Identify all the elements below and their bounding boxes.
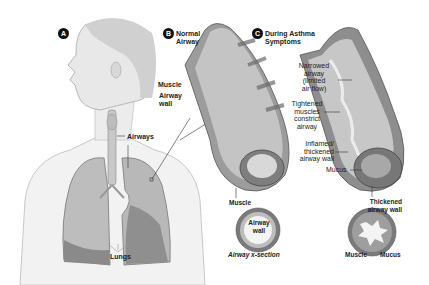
xsec-label-mucus: Mucus	[380, 251, 401, 259]
label-mucus: Mucus	[326, 166, 347, 174]
xsec-caption: Airway x-section	[228, 251, 280, 259]
panel-b-title: Normal Airway	[176, 30, 200, 45]
badge-b: B	[163, 28, 174, 39]
label-tightened-muscles: Tightened muscles constrict airway	[287, 100, 327, 130]
xsec-label-muscle: Muscle	[229, 199, 251, 207]
label-muscle: Muscle	[158, 81, 182, 89]
label-airway-wall: Airway wall	[159, 92, 182, 107]
panel-c-title: During Asthma Symptoms	[265, 30, 315, 45]
label-narrowed-airway: Narrowed airway (limited air flow)	[290, 62, 338, 92]
badge-a: A	[58, 28, 69, 39]
label-inflamed-wall: Inflamed/ thickened airway wall	[290, 140, 334, 163]
label-lungs: Lungs	[110, 253, 131, 261]
normal-airway-tube	[185, 23, 289, 191]
xsec-label-airway-wall: Airway wall	[247, 219, 271, 234]
asthma-diagram-illustration	[0, 0, 429, 285]
xsec-label-muscle-asthma: Muscle	[345, 251, 367, 259]
label-airways: Airways	[127, 133, 154, 141]
human-figure	[20, 18, 205, 285]
xsec-label-thickened-wall: Thickened airway wall	[350, 198, 402, 213]
badge-c: C	[252, 28, 263, 39]
